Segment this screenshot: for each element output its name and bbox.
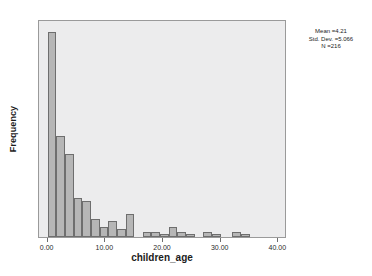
x-axis-tick — [162, 238, 163, 242]
histogram-bar — [100, 227, 109, 237]
y-axis-title: Frequency — [6, 20, 20, 238]
histogram-bar — [151, 232, 160, 237]
histogram-bar — [241, 234, 250, 237]
plot-area — [38, 20, 286, 238]
statistics-annotation: Mean =4.21 Std. Dev. =5.066 N =216 — [296, 28, 366, 51]
stat-n: N =216 — [296, 43, 366, 51]
bars-layer — [39, 21, 285, 237]
histogram-bar — [232, 232, 241, 237]
histogram-bar — [212, 234, 221, 237]
x-axis-tick-label: 30.00 — [211, 244, 229, 252]
histogram-bar — [117, 229, 126, 237]
histogram-bar — [65, 154, 74, 237]
histogram-bar — [169, 227, 178, 237]
x-axis-tick-label: 0.00 — [40, 244, 54, 252]
stat-mean: Mean =4.21 — [296, 28, 366, 36]
histogram-bar — [108, 221, 117, 237]
x-axis-tick — [220, 238, 221, 242]
histogram-bar — [143, 232, 152, 237]
histogram-bar — [177, 232, 186, 237]
x-axis-tick — [104, 238, 105, 242]
histogram-bar — [186, 234, 195, 237]
histogram-bar — [48, 32, 57, 237]
x-axis-tick-label: 20.00 — [153, 244, 171, 252]
histogram-figure: 020406080 Frequency 0.0010.0020.0030.004… — [0, 0, 372, 276]
histogram-bar — [160, 234, 169, 237]
x-axis-tick — [47, 238, 48, 242]
x-axis-tick — [277, 238, 278, 242]
histogram-bar — [82, 201, 91, 237]
histogram-bar — [74, 198, 83, 237]
x-axis-tick-label: 10.00 — [96, 244, 114, 252]
x-axis-title: children_age — [38, 252, 286, 263]
histogram-bar — [126, 214, 135, 237]
histogram-bar — [56, 136, 65, 237]
y-axis-title-label: Frequency — [8, 106, 18, 152]
histogram-bar — [203, 232, 212, 237]
histogram-bar — [91, 219, 100, 237]
stat-std-dev: Std. Dev. =5.066 — [296, 36, 366, 44]
x-axis-tick-label: 40.00 — [269, 244, 287, 252]
